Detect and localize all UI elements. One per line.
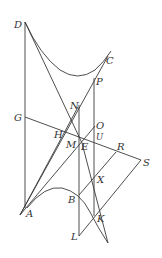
label-R: R (116, 141, 125, 152)
geometry-diagram: D C P N G O H U M E R S X B A K L (0, 0, 162, 258)
label-H: H (53, 129, 63, 140)
label-A: A (25, 208, 33, 219)
line-GS (25, 117, 141, 160)
label-K: K (96, 213, 105, 224)
label-C: C (106, 55, 114, 66)
label-P: P (95, 76, 103, 87)
label-S: S (143, 157, 150, 168)
label-N: N (69, 100, 80, 111)
label-X: X (96, 174, 105, 185)
label-M: M (65, 139, 77, 150)
line-DN (25, 22, 82, 143)
label-E: E (80, 141, 89, 152)
label-D: D (13, 19, 22, 30)
label-G: G (14, 112, 22, 123)
label-B: B (67, 194, 75, 205)
label-O: O (96, 120, 104, 131)
label-U: U (96, 132, 104, 142)
label-L: L (70, 231, 78, 242)
line-SL (79, 160, 141, 236)
